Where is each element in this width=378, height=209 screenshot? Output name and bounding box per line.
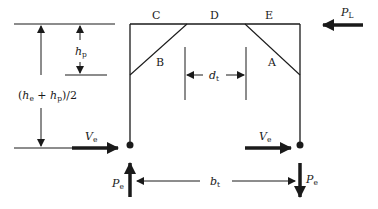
shear-right-label: Ve — [259, 130, 272, 144]
label-brace-a: A — [267, 56, 277, 69]
frame-diagram: (he + hp)/2 hp C D E B A PL dt Ve Ve Pe — [0, 0, 378, 209]
label-e: E — [265, 9, 273, 22]
dt-label: dt — [209, 69, 219, 83]
bt-label: bt — [210, 175, 220, 189]
axial-left-label: Pe — [111, 177, 124, 191]
right-base-node — [297, 142, 304, 149]
label-brace-b: B — [156, 56, 164, 69]
label-d: D — [210, 9, 219, 22]
lever-arm-label: (he + hp)/2 — [18, 89, 77, 103]
label-c: C — [152, 9, 160, 22]
lateral-load-label: PL — [340, 6, 353, 20]
left-base-node — [127, 142, 134, 149]
axial-right-label: Pe — [305, 173, 318, 187]
shear-left-label: Ve — [85, 130, 98, 144]
panel-height-label: hp — [75, 45, 87, 59]
